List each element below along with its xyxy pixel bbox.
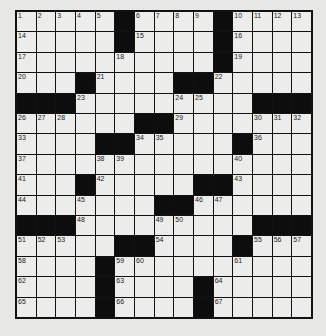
grid-cell[interactable]: 22 [214,73,233,92]
grid-cell[interactable] [135,298,154,317]
grid-cell[interactable] [135,73,154,92]
grid-cell[interactable] [214,257,233,276]
grid-cell[interactable] [56,175,75,194]
grid-cell[interactable] [76,134,95,153]
grid-cell[interactable]: 18 [115,53,134,72]
grid-cell[interactable]: 52 [37,236,56,255]
grid-cell[interactable] [135,53,154,72]
grid-cell[interactable] [76,298,95,317]
grid-cell[interactable] [115,175,134,194]
grid-cell[interactable] [76,155,95,174]
grid-cell[interactable] [96,114,115,133]
grid-cell[interactable]: 57 [292,236,311,255]
grid-cell[interactable] [273,53,292,72]
grid-cell[interactable] [292,298,311,317]
grid-cell[interactable] [214,236,233,255]
grid-cell[interactable]: 33 [17,134,36,153]
grid-cell[interactable]: 38 [96,155,115,174]
grid-cell[interactable] [214,134,233,153]
grid-cell[interactable] [155,175,174,194]
grid-cell[interactable]: 5 [96,12,115,31]
grid-cell[interactable] [174,277,193,296]
grid-cell[interactable] [233,298,252,317]
grid-cell[interactable]: 42 [96,175,115,194]
grid-cell[interactable]: 12 [273,12,292,31]
grid-cell[interactable]: 36 [253,134,272,153]
grid-cell[interactable] [37,196,56,215]
grid-cell[interactable]: 35 [155,134,174,153]
grid-cell[interactable]: 58 [17,257,36,276]
grid-cell[interactable]: 59 [115,257,134,276]
grid-cell[interactable] [292,196,311,215]
grid-cell[interactable] [174,298,193,317]
grid-cell[interactable] [233,196,252,215]
grid-cell[interactable] [233,73,252,92]
grid-cell[interactable]: 15 [135,32,154,51]
grid-cell[interactable]: 4 [76,12,95,31]
grid-cell[interactable] [155,277,174,296]
grid-cell[interactable]: 31 [273,114,292,133]
grid-cell[interactable] [96,196,115,215]
grid-cell[interactable] [292,155,311,174]
grid-cell[interactable]: 62 [17,277,36,296]
grid-cell[interactable]: 43 [233,175,252,194]
grid-cell[interactable] [56,155,75,174]
grid-cell[interactable]: 3 [56,12,75,31]
grid-cell[interactable]: 20 [17,73,36,92]
grid-cell[interactable]: 19 [233,53,252,72]
grid-cell[interactable] [56,196,75,215]
grid-cell[interactable] [76,257,95,276]
grid-cell[interactable] [273,175,292,194]
grid-cell[interactable] [253,32,272,51]
grid-cell[interactable] [174,134,193,153]
grid-cell[interactable] [115,73,134,92]
grid-cell[interactable] [253,196,272,215]
grid-cell[interactable] [292,73,311,92]
grid-cell[interactable] [37,175,56,194]
grid-cell[interactable]: 26 [17,114,36,133]
grid-cell[interactable]: 16 [233,32,252,51]
grid-cell[interactable] [253,53,272,72]
grid-cell[interactable] [214,155,233,174]
grid-cell[interactable] [76,32,95,51]
grid-cell[interactable]: 21 [96,73,115,92]
grid-cell[interactable] [115,216,134,235]
grid-cell[interactable] [37,155,56,174]
grid-cell[interactable] [194,216,213,235]
grid-cell[interactable] [253,155,272,174]
grid-cell[interactable]: 9 [194,12,213,31]
grid-cell[interactable] [194,155,213,174]
grid-cell[interactable]: 40 [233,155,252,174]
grid-cell[interactable] [96,94,115,113]
grid-cell[interactable]: 24 [174,94,193,113]
grid-cell[interactable]: 54 [155,236,174,255]
grid-cell[interactable] [155,155,174,174]
grid-cell[interactable]: 49 [155,216,174,235]
grid-cell[interactable] [273,73,292,92]
grid-cell[interactable] [76,53,95,72]
grid-cell[interactable] [135,155,154,174]
grid-cell[interactable]: 14 [17,32,36,51]
grid-cell[interactable] [56,277,75,296]
grid-cell[interactable]: 46 [194,196,213,215]
grid-cell[interactable] [37,32,56,51]
grid-cell[interactable] [273,155,292,174]
grid-cell[interactable]: 29 [174,114,193,133]
grid-cell[interactable] [96,32,115,51]
grid-cell[interactable] [96,236,115,255]
grid-cell[interactable] [273,196,292,215]
grid-cell[interactable] [253,277,272,296]
grid-cell[interactable] [292,134,311,153]
grid-cell[interactable] [37,73,56,92]
grid-cell[interactable]: 23 [76,94,95,113]
grid-cell[interactable] [253,175,272,194]
grid-cell[interactable] [115,114,134,133]
grid-cell[interactable]: 30 [253,114,272,133]
grid-cell[interactable]: 8 [174,12,193,31]
grid-cell[interactable]: 64 [214,277,233,296]
grid-cell[interactable] [292,53,311,72]
grid-cell[interactable] [56,73,75,92]
grid-cell[interactable] [56,32,75,51]
grid-cell[interactable]: 37 [17,155,36,174]
grid-cell[interactable] [253,257,272,276]
